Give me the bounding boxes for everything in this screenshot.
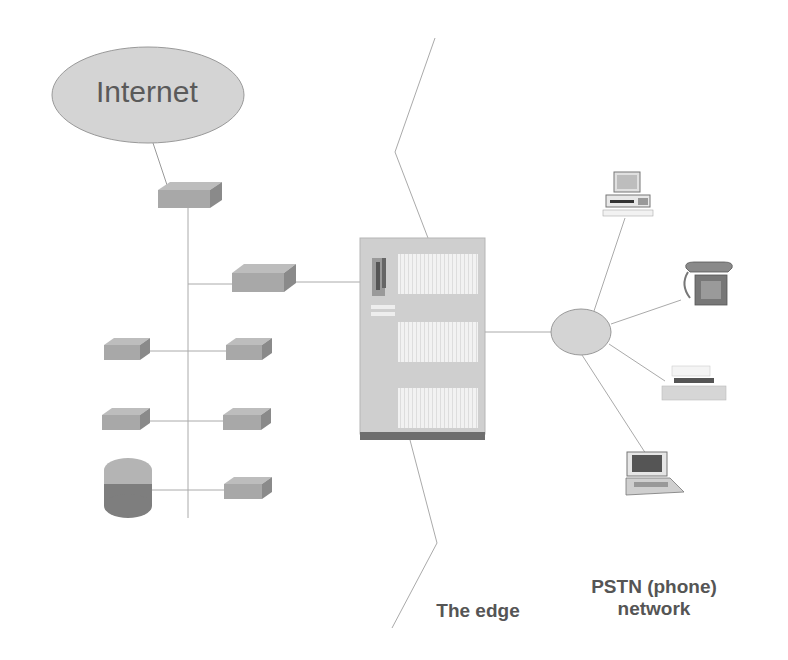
hub-icon <box>223 408 271 430</box>
hub-icon <box>102 408 150 430</box>
pstn-link <box>609 344 665 381</box>
pstn-link <box>582 355 646 454</box>
edge-boundary-top <box>395 38 435 238</box>
internet-label: Internet <box>96 75 198 109</box>
pstn-link <box>611 300 681 324</box>
printer-icon <box>662 366 726 400</box>
desktop-computer-icon <box>603 172 653 216</box>
telephone-icon <box>684 262 732 305</box>
pstn-link <box>594 218 625 311</box>
hub-icon <box>226 338 272 360</box>
edge-label: The edge <box>428 600 528 622</box>
pstn-label-line1: PSTN (phone) <box>584 576 724 598</box>
hub-icon <box>224 477 272 499</box>
pstn-hub-icon <box>551 309 611 355</box>
pstn-label-line2: network <box>584 598 724 620</box>
hub-icon <box>104 338 150 360</box>
router-icon <box>158 182 222 208</box>
pstn-label: PSTN (phone) network <box>584 576 724 620</box>
database-icon <box>104 458 152 518</box>
internet-router-link <box>153 143 168 188</box>
hub-icon <box>232 264 296 292</box>
pbx-switch-cabinet-icon <box>360 238 485 440</box>
laptop-icon <box>626 452 684 495</box>
